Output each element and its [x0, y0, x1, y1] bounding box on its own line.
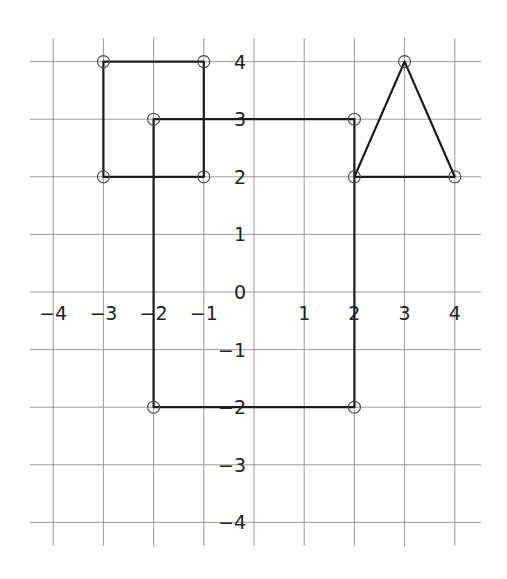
- y-tick-label: 0: [234, 281, 246, 303]
- y-tick-label: −1: [218, 339, 246, 361]
- x-tick-label: 4: [449, 302, 461, 324]
- x-tick-label: 1: [298, 302, 310, 324]
- y-tick-label: −4: [218, 511, 246, 533]
- x-tick-label: 2: [348, 302, 360, 324]
- y-tick-label: 4: [234, 51, 246, 73]
- grid-lines: [30, 38, 481, 546]
- y-tick-label: −3: [218, 454, 246, 476]
- y-tick-label: 1: [234, 223, 246, 245]
- y-tick-label: 2: [234, 166, 246, 188]
- x-tick-label: −4: [39, 302, 67, 324]
- coordinate-grid: −4−3−2−1123443210−1−2−3−4: [0, 0, 507, 579]
- y-tick-label: −2: [218, 396, 246, 418]
- x-tick-label: −2: [140, 302, 168, 324]
- y-tick-label: 3: [234, 108, 246, 130]
- x-tick-label: −1: [190, 302, 218, 324]
- x-tick-label: −3: [89, 302, 117, 324]
- x-tick-label: 3: [399, 302, 411, 324]
